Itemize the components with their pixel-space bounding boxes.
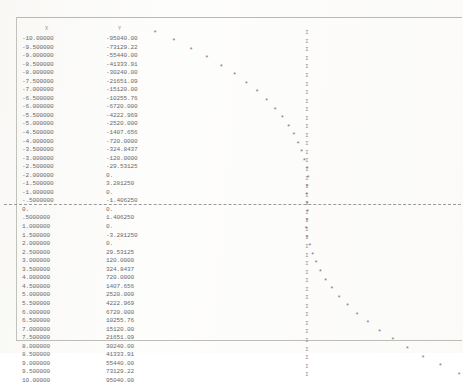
axis-tick-glyph: I — [305, 39, 309, 45]
plot-point: * — [205, 55, 209, 62]
cell-y: -29.53125 — [106, 163, 138, 172]
plot-point: * — [255, 89, 259, 96]
table-row: 7.00000015120.00 — [22, 326, 172, 335]
axis-tick-glyph: I — [305, 64, 309, 70]
cell-x: 1.500000 — [22, 232, 50, 241]
axis-tick-glyph: I — [305, 235, 309, 241]
plot-point: * — [305, 218, 309, 225]
cell-y: 720.0000 — [106, 274, 134, 283]
table-row: -9.500000-73129.22 — [22, 44, 172, 53]
axis-tick-glyph: I — [305, 116, 309, 122]
plot-point: * — [457, 372, 461, 379]
plot-point: * — [345, 303, 349, 310]
table-row: -4.000000-720.0000 — [22, 138, 172, 147]
cell-y: 1407.656 — [106, 283, 134, 292]
axis-tick-glyph: I — [305, 193, 309, 199]
cell-x: -3.000000 — [22, 155, 54, 164]
table-row: -5.500000-4222.969 — [22, 112, 172, 121]
cell-y: -1407.656 — [106, 129, 138, 138]
cell-y: -95040.00 — [106, 35, 138, 44]
table-row: 5.0000002520.000 — [22, 291, 172, 300]
cell-x: 2.000000 — [22, 240, 50, 249]
cell-x: -5.000000 — [22, 120, 54, 129]
cell-x: -6.000000 — [22, 103, 54, 112]
axis-tick-glyph: I — [305, 321, 309, 327]
cell-y: 41333.91 — [106, 351, 134, 360]
plot-point: * — [304, 192, 308, 199]
cell-y: 3.281250 — [106, 180, 134, 189]
cell-y: 55440.00 — [106, 360, 134, 369]
cell-y: 0. — [106, 223, 113, 232]
axis-tick-glyph: I — [305, 210, 309, 216]
table-row: -2.0000000. — [22, 172, 172, 181]
plot-point: * — [337, 295, 341, 302]
cell-y: 73129.22 — [106, 368, 134, 377]
table-row: 7.50000021651.09 — [22, 334, 172, 343]
axis-tick-glyph: I — [305, 56, 309, 62]
plot-point: * — [405, 346, 409, 353]
cell-y: -2520.000 — [106, 120, 138, 129]
table-row: 8.50000041333.91 — [22, 351, 172, 360]
axis-tick-glyph: I — [305, 329, 309, 335]
table-row: .50000001.406250 — [22, 214, 172, 223]
plot-point: * — [355, 312, 359, 319]
plot-point: * — [323, 278, 327, 285]
cell-x: -2.000000 — [22, 172, 54, 181]
table-row: -6.500000-10255.76 — [22, 95, 172, 104]
cell-x: -1.000000 — [22, 189, 54, 198]
cell-y: 324.8437 — [106, 266, 134, 275]
cell-x: -8.500000 — [22, 61, 54, 70]
axis-tick-glyph: I — [305, 372, 309, 378]
cell-y: 4222.969 — [106, 300, 134, 309]
cell-x: 2.500000 — [22, 249, 50, 258]
axis-tick-glyph: I — [305, 167, 309, 173]
cell-x: -1.500000 — [22, 180, 54, 189]
cell-x: -6.500000 — [22, 95, 54, 104]
cell-y: 0. — [106, 189, 113, 198]
plot-point: * — [305, 166, 309, 173]
cell-x: 5.000000 — [22, 291, 50, 300]
table-row: 3.000000120.0000 — [22, 257, 172, 266]
cell-x: 10.00000 — [22, 377, 50, 385]
cell-y: -3.281250 — [106, 232, 138, 241]
column-header-y: Y — [118, 26, 121, 32]
table-row: -7.500000-21651.09 — [22, 78, 172, 87]
table-row: 4.5000001407.656 — [22, 283, 172, 292]
plot-point: * — [300, 149, 304, 156]
plot-point: * — [306, 209, 310, 216]
cell-x: 4.000000 — [22, 274, 50, 283]
data-table: X Y -10.00000-95040.00-9.500000-73129.22… — [22, 26, 172, 385]
cell-y: 6720.000 — [106, 309, 134, 318]
axis-tick-glyph: I — [305, 73, 309, 79]
table-row: -.5000000-1.406250 — [22, 197, 172, 206]
cell-y: -6720.000 — [106, 103, 138, 112]
plot-point: * — [287, 124, 291, 131]
axis-tick-glyph: I — [305, 150, 309, 156]
table-row: 2.0000000. — [22, 240, 172, 249]
cell-x: -9.500000 — [22, 44, 54, 53]
axis-tick-glyph: I — [305, 355, 309, 361]
table-row: -8.500000-41333.91 — [22, 61, 172, 70]
table-row: 8.00000030240.00 — [22, 343, 172, 352]
plot-point: * — [421, 355, 425, 362]
axis-tick-glyph: I — [305, 304, 309, 310]
axis-tick-glyph: I — [305, 133, 309, 139]
cell-y: -10255.76 — [106, 95, 138, 104]
cell-x: -8.000000 — [22, 69, 54, 78]
cell-x: -7.500000 — [22, 78, 54, 87]
table-row: -4.500000-1407.656 — [22, 129, 172, 138]
cell-y: -30240.00 — [106, 69, 138, 78]
table-row: -1.5000003.281250 — [22, 180, 172, 189]
cell-y: 0. — [106, 172, 113, 181]
cell-x: -2.500000 — [22, 163, 54, 172]
axis-tick-glyph: I — [305, 47, 309, 53]
axis-tick-glyph: I — [305, 99, 309, 105]
table-header-row: X Y — [22, 26, 172, 35]
table-row: 6.50000010255.76 — [22, 317, 172, 326]
cell-y: 21651.09 — [106, 334, 134, 343]
plot-point: * — [378, 329, 382, 336]
axis-tick-glyph: I — [305, 261, 309, 267]
axis-tick-glyph: I — [305, 347, 309, 353]
axis-tick-glyph: I — [305, 278, 309, 284]
